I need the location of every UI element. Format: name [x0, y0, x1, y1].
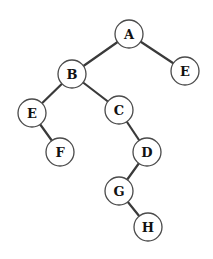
- tree-node-h: H: [134, 213, 162, 241]
- node-label: E: [180, 64, 190, 79]
- tree-node-g: G: [105, 177, 133, 205]
- node-label: G: [113, 184, 124, 199]
- tree-node-e1: E: [171, 57, 199, 85]
- node-label: E: [27, 106, 37, 121]
- node-label: C: [114, 103, 124, 118]
- node-label: H: [142, 220, 154, 235]
- tree-node-e2: E: [18, 99, 46, 127]
- node-label: D: [141, 145, 152, 160]
- tree-node-a: A: [115, 20, 143, 48]
- tree-node-f: F: [46, 138, 74, 166]
- tree-node-c: C: [105, 96, 133, 124]
- tree-node-b: B: [58, 60, 86, 88]
- node-label: A: [123, 27, 135, 42]
- node-label: F: [55, 145, 65, 160]
- node-label: B: [67, 67, 78, 82]
- tree-diagram: AEBECFDGH: [0, 0, 213, 259]
- tree-node-d: D: [133, 138, 161, 166]
